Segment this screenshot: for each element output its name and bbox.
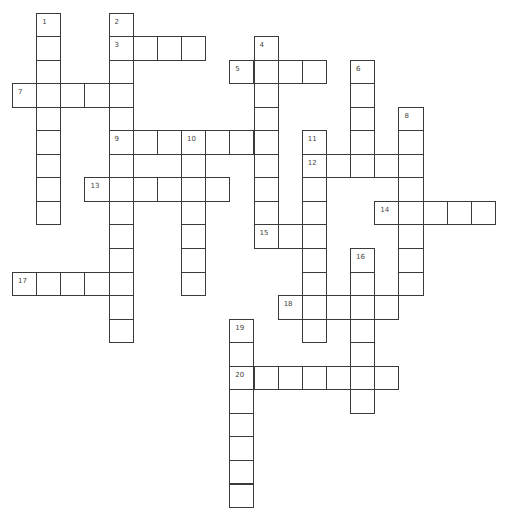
crossword-cell[interactable] — [254, 154, 279, 179]
crossword-cell[interactable] — [350, 83, 375, 108]
crossword-cell[interactable] — [36, 130, 61, 155]
crossword-cell[interactable]: 6 — [350, 60, 375, 85]
crossword-cell[interactable] — [254, 177, 279, 202]
crossword-cell[interactable]: 15 — [254, 224, 279, 249]
crossword-cell[interactable] — [181, 154, 206, 179]
crossword-cell[interactable] — [36, 201, 61, 226]
crossword-cell[interactable] — [109, 154, 134, 179]
crossword-cell[interactable]: 9 — [109, 130, 134, 155]
crossword-cell[interactable] — [133, 36, 158, 61]
crossword-cell[interactable] — [398, 154, 423, 179]
crossword-cell[interactable] — [181, 177, 206, 202]
crossword-cell[interactable] — [229, 342, 254, 367]
crossword-cell[interactable]: 3 — [109, 36, 134, 61]
crossword-cell[interactable] — [254, 107, 279, 132]
crossword-cell[interactable] — [254, 83, 279, 108]
crossword-cell[interactable] — [181, 224, 206, 249]
crossword-cell[interactable] — [84, 83, 109, 108]
crossword-cell[interactable] — [157, 36, 182, 61]
crossword-cell[interactable] — [109, 272, 134, 297]
crossword-cell[interactable] — [302, 295, 327, 320]
crossword-cell[interactable] — [133, 177, 158, 202]
crossword-cell[interactable] — [398, 201, 423, 226]
crossword-cell[interactable] — [36, 36, 61, 61]
crossword-cell[interactable] — [302, 248, 327, 273]
crossword-cell[interactable] — [60, 83, 85, 108]
crossword-cell[interactable] — [326, 154, 351, 179]
crossword-cell[interactable] — [36, 154, 61, 179]
crossword-cell[interactable] — [205, 130, 230, 155]
crossword-cell[interactable]: 13 — [84, 177, 109, 202]
crossword-cell[interactable]: 8 — [398, 107, 423, 132]
crossword-cell[interactable] — [36, 60, 61, 85]
crossword-cell[interactable] — [229, 460, 254, 485]
crossword-cell[interactable] — [181, 201, 206, 226]
crossword-cell[interactable] — [398, 130, 423, 155]
crossword-cell[interactable] — [350, 272, 375, 297]
crossword-cell[interactable]: 10 — [181, 130, 206, 155]
crossword-cell[interactable] — [350, 107, 375, 132]
crossword-cell[interactable] — [302, 272, 327, 297]
crossword-cell[interactable]: 7 — [12, 83, 37, 108]
crossword-cell[interactable] — [374, 295, 399, 320]
crossword-cell[interactable]: 18 — [278, 295, 303, 320]
crossword-cell[interactable] — [157, 177, 182, 202]
crossword-cell[interactable] — [229, 484, 254, 509]
crossword-cell[interactable] — [254, 60, 279, 85]
crossword-cell[interactable] — [36, 177, 61, 202]
crossword-cell[interactable] — [423, 201, 448, 226]
crossword-cell[interactable] — [36, 107, 61, 132]
crossword-cell[interactable] — [302, 60, 327, 85]
crossword-cell[interactable]: 17 — [12, 272, 37, 297]
crossword-cell[interactable] — [302, 224, 327, 249]
crossword-cell[interactable] — [471, 201, 496, 226]
crossword-cell[interactable]: 2 — [109, 13, 134, 38]
crossword-cell[interactable] — [181, 272, 206, 297]
crossword-cell[interactable] — [229, 389, 254, 414]
crossword-cell[interactable] — [398, 272, 423, 297]
crossword-cell[interactable] — [447, 201, 472, 226]
crossword-cell[interactable] — [254, 201, 279, 226]
crossword-cell[interactable]: 16 — [350, 248, 375, 273]
crossword-cell[interactable] — [350, 342, 375, 367]
crossword-cell[interactable] — [278, 366, 303, 391]
crossword-cell[interactable] — [302, 201, 327, 226]
crossword-cell[interactable] — [229, 413, 254, 438]
crossword-cell[interactable] — [278, 60, 303, 85]
crossword-cell[interactable]: 20 — [229, 366, 254, 391]
crossword-cell[interactable] — [278, 224, 303, 249]
crossword-cell[interactable] — [84, 272, 109, 297]
crossword-cell[interactable] — [109, 248, 134, 273]
crossword-cell[interactable] — [302, 319, 327, 344]
crossword-cell[interactable] — [157, 130, 182, 155]
crossword-cell[interactable] — [109, 295, 134, 320]
crossword-cell[interactable] — [350, 319, 375, 344]
crossword-cell[interactable] — [36, 83, 61, 108]
crossword-cell[interactable] — [229, 130, 254, 155]
crossword-cell[interactable] — [350, 130, 375, 155]
crossword-cell[interactable] — [60, 272, 85, 297]
crossword-cell[interactable] — [109, 319, 134, 344]
crossword-cell[interactable] — [133, 130, 158, 155]
crossword-cell[interactable] — [374, 366, 399, 391]
crossword-cell[interactable] — [181, 36, 206, 61]
crossword-cell[interactable] — [109, 60, 134, 85]
crossword-cell[interactable] — [374, 154, 399, 179]
crossword-cell[interactable] — [350, 366, 375, 391]
crossword-cell[interactable] — [398, 248, 423, 273]
crossword-cell[interactable] — [350, 389, 375, 414]
crossword-cell[interactable] — [229, 436, 254, 461]
crossword-cell[interactable] — [326, 366, 351, 391]
crossword-cell[interactable] — [109, 177, 134, 202]
crossword-cell[interactable] — [302, 366, 327, 391]
crossword-cell[interactable] — [205, 177, 230, 202]
crossword-cell[interactable] — [326, 295, 351, 320]
crossword-cell[interactable]: 4 — [254, 36, 279, 61]
crossword-cell[interactable] — [398, 224, 423, 249]
crossword-cell[interactable] — [398, 177, 423, 202]
crossword-cell[interactable] — [109, 83, 134, 108]
crossword-cell[interactable] — [254, 366, 279, 391]
crossword-cell[interactable] — [109, 201, 134, 226]
crossword-cell[interactable]: 14 — [374, 201, 399, 226]
crossword-cell[interactable] — [254, 130, 279, 155]
